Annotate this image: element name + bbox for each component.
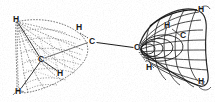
atom-label-h-left-top: H [13,15,19,24]
atom-label-h-mid: H [76,23,82,32]
atom-label-c-mid: C [89,37,95,46]
atom-label-c-right-left: C [134,43,140,52]
molecule-wireframe-canvas [0,0,215,102]
atom-label-h-right-bottom: H [198,77,204,86]
atom-label-h-left-bottom: H [15,87,21,96]
atom-label-c-right: C [180,31,186,40]
atom-label-h-right-low: H [146,63,152,72]
atom-label-h-right-top: H [198,5,204,14]
molecular-structure-figure: H C H H H C C H H C H H [0,0,215,102]
atom-label-h-left-right: H [57,69,63,78]
paper-grain [0,0,215,102]
atom-label-c-left: C [38,55,44,64]
atom-label-h-right-mid: H [164,21,170,30]
